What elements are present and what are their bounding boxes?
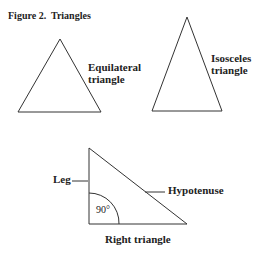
- figure-title: Figure 2. Triangles: [8, 11, 91, 22]
- angle-label: 90°: [96, 205, 110, 216]
- equilateral-label: Equilateral triangle: [88, 62, 141, 85]
- right-triangle-caption: Right triangle: [105, 234, 171, 246]
- triangles-diagram: [0, 0, 259, 257]
- equilateral-label-line2: triangle: [88, 74, 141, 86]
- hypotenuse-label: Hypotenuse: [168, 185, 224, 197]
- isosceles-label-line2: triangle: [211, 65, 251, 77]
- isosceles-label-line1: Isosceles: [211, 53, 251, 65]
- leg-label: Leg: [53, 174, 71, 186]
- isosceles-label: Isosceles triangle: [211, 53, 251, 76]
- equilateral-label-line1: Equilateral: [88, 62, 141, 74]
